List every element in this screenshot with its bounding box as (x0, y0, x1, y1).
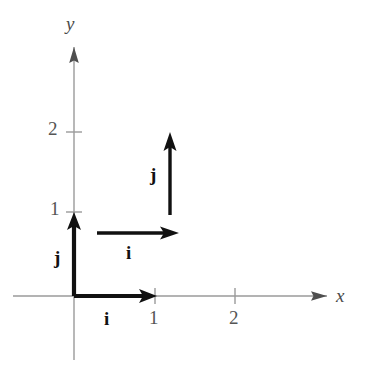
x-tick-label-2: 2 (229, 308, 239, 327)
x-axis-label: x (336, 286, 344, 305)
j-floating-label: j (150, 165, 156, 184)
coordinate-plane-graphic (0, 0, 366, 376)
i-at-origin-label: i (104, 309, 109, 328)
y-tick-label-2: 2 (48, 119, 58, 138)
vector-diagram: y x 2 1 1 2 i j i j (0, 0, 366, 376)
x-tick-label-1: 1 (149, 308, 159, 327)
y-tick-label-1: 1 (50, 199, 60, 218)
y-axis-label: y (66, 14, 74, 33)
j-at-origin-label: j (54, 248, 60, 267)
i-floating-label: i (126, 243, 131, 262)
